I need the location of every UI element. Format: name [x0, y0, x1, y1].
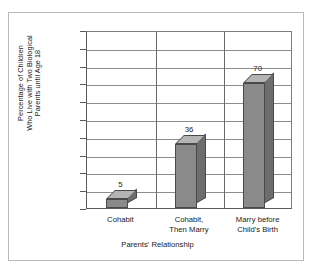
bar[interactable]	[243, 83, 265, 208]
x-axis-category-label: Cohabit	[107, 215, 134, 225]
y-axis-tick-mark	[80, 209, 86, 210]
bar-value-label: 36	[185, 125, 194, 134]
bar[interactable]	[106, 199, 128, 208]
category-divider	[224, 32, 225, 208]
bar-front-face	[106, 199, 128, 208]
bar-side-face	[265, 73, 274, 203]
bar-front-face	[175, 144, 197, 208]
y-axis-title: Percentage of Children Who Live with Two…	[4, 3, 56, 163]
x-axis-category-label-line: Cohabit,	[169, 215, 208, 225]
plot-area	[86, 31, 292, 209]
bar-front-face	[243, 83, 265, 208]
x-axis-category-label-line: Then Marry	[169, 225, 208, 235]
x-axis-title: Parents' Relationship	[0, 240, 315, 249]
category-divider	[156, 32, 157, 208]
x-axis-category-label-line: Child's Birth	[236, 225, 280, 235]
x-axis-category-label-line: Marry before	[236, 215, 280, 225]
gridline	[87, 50, 291, 51]
bar-value-label: 5	[118, 180, 122, 189]
bar[interactable]	[175, 144, 197, 208]
y-axis-title-line-3: Parents until Age 18	[34, 50, 43, 116]
x-axis-category-label-line: Cohabit	[107, 215, 134, 225]
bar-side-face	[197, 134, 206, 203]
bar-value-label: 70	[253, 64, 262, 73]
x-axis-category-label: Marry beforeChild's Birth	[236, 215, 280, 235]
x-axis-category-label: Cohabit,Then Marry	[169, 215, 208, 235]
figure-container: Percentage of Children Who Live with Two…	[0, 0, 315, 273]
